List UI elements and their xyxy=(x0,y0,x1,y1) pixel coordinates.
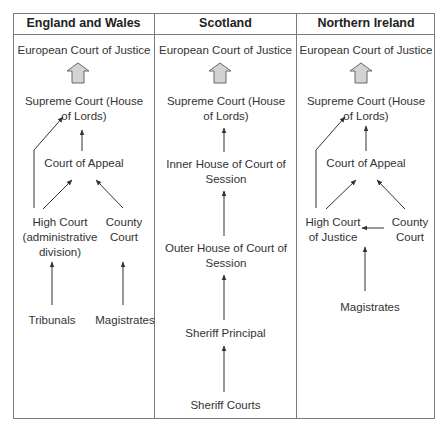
node-ecj: European Court of Justice xyxy=(155,43,296,58)
header-divider xyxy=(13,34,435,35)
node-magistrates: Magistrates xyxy=(335,300,405,315)
header-northern-ireland: Northern Ireland xyxy=(297,13,435,34)
node-outer-house: Outer House of Court of Session xyxy=(162,241,290,271)
node-supreme-court: Supreme Court (House of Lords) xyxy=(162,94,290,124)
node-ecj: European Court of Justice xyxy=(14,43,154,58)
column-divider xyxy=(296,13,297,419)
node-high-court: High Court of Justice xyxy=(302,215,364,245)
node-supreme-court: Supreme Court (House of Lords) xyxy=(302,94,430,124)
column-divider xyxy=(154,13,155,419)
header-england-wales: England and Wales xyxy=(13,13,154,34)
header-scotland: Scotland xyxy=(155,13,296,34)
node-court-of-appeal: Court of Appeal xyxy=(14,156,154,171)
node-county-court: County Court xyxy=(100,215,148,245)
node-county-court: County Court xyxy=(388,215,432,245)
node-supreme-court: Supreme Court (House of Lords) xyxy=(20,94,148,124)
node-sheriff-courts: Sheriff Courts xyxy=(155,398,296,413)
node-magistrates: Magistrates xyxy=(93,313,157,328)
node-sheriff-principal: Sheriff Principal xyxy=(155,326,296,341)
node-ecj: European Court of Justice xyxy=(297,43,435,58)
node-inner-house: Inner House of Court of Session xyxy=(162,157,290,187)
node-court-of-appeal: Court of Appeal xyxy=(297,156,435,171)
node-tribunals: Tribunals xyxy=(22,313,82,328)
node-high-court: High Court (administrative division) xyxy=(18,215,102,260)
